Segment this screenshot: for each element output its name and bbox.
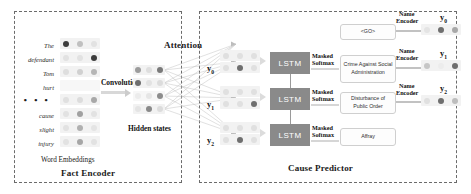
embedding-dot <box>77 139 83 145</box>
word-embedding-row <box>60 38 100 49</box>
name-encoder-label: Name <box>399 47 414 54</box>
hidden-state-row <box>133 104 165 114</box>
word-ellipsis: • • • <box>20 97 54 103</box>
decoder-input-vector <box>220 134 260 145</box>
hidden-state-dot <box>135 80 141 86</box>
decoder-input-dot <box>251 137 257 143</box>
decoder-input-arrow <box>260 57 266 65</box>
hidden-state-dot <box>157 106 163 112</box>
word-label: The <box>20 42 54 49</box>
output-label-y0: y0 <box>440 12 447 24</box>
name-encoder-connector <box>396 67 422 69</box>
decoder-input-vector <box>220 86 260 97</box>
masked-softmax-label: Softmax <box>312 95 334 102</box>
embedding-dot <box>63 97 69 103</box>
decoder-input-dot <box>223 101 229 107</box>
output-vector <box>421 60 461 71</box>
class-label-box: Crime Against Social Administration <box>340 55 396 83</box>
decoder-input-dot <box>223 125 229 131</box>
decoder-input-dot <box>251 89 257 95</box>
decoder-input-dot <box>223 65 229 71</box>
output-dot <box>424 63 430 69</box>
decoder-input-dot <box>251 101 257 107</box>
embedding-dot <box>91 111 97 117</box>
lstm-link <box>290 74 291 88</box>
embedding-dot <box>77 111 83 117</box>
hidden-state-dot <box>146 106 152 112</box>
decoder-input-vector <box>220 62 260 73</box>
lstm-block: LSTM <box>270 124 310 146</box>
word-label: slight <box>20 126 54 133</box>
masked-softmax-label: Softmax <box>312 131 334 138</box>
hidden-state-row <box>133 91 165 101</box>
class-label-box: Disturbance of Public Order <box>340 92 396 114</box>
embedding-dot <box>63 55 69 61</box>
decoder-input-dot <box>237 125 243 131</box>
word-embedding-row <box>60 94 100 105</box>
embedding-dot <box>77 97 83 103</box>
output-label-y1: y1 <box>440 48 447 60</box>
name-encoder-label: Encoder <box>396 54 418 61</box>
output-dot <box>438 63 444 69</box>
word-embedding-row <box>60 136 100 147</box>
word-embedding-row <box>60 52 100 63</box>
convolution-arrowhead <box>125 89 131 97</box>
output-dot <box>452 63 458 69</box>
decoder-input-vector <box>220 98 260 109</box>
embedding-dot <box>63 111 69 117</box>
embedding-dot <box>91 125 97 131</box>
decoder-input-dot <box>223 89 229 95</box>
lstm-block: LSTM <box>270 52 310 74</box>
embedding-dot <box>63 139 69 145</box>
word-embeddings-caption: Word Embeddings <box>41 156 95 164</box>
embedding-dot <box>63 69 69 75</box>
word-label: hurt <box>20 84 54 91</box>
decoder-input-dot <box>223 53 229 59</box>
decoder-input-dot <box>237 89 243 95</box>
decoder-input-vector <box>220 122 260 133</box>
softmax-connector <box>311 68 339 70</box>
decoder-input-dot <box>237 53 243 59</box>
embedding-dot <box>77 69 83 75</box>
word-label: defendant <box>20 56 54 63</box>
hidden-state-dot <box>146 80 152 86</box>
name-encoder-label: Name <box>399 10 414 17</box>
decoder-input-dot <box>251 125 257 131</box>
decoder-input-dot <box>223 137 229 143</box>
masked-softmax-label: Masked <box>312 124 333 131</box>
embedding-dot <box>91 69 97 75</box>
hidden-state-dot <box>146 67 152 73</box>
decoder-input-dot <box>251 65 257 71</box>
decoder-input-dot <box>237 101 243 107</box>
decoder-input-label-y2: y2 <box>207 135 214 147</box>
embedding-dot <box>91 97 97 103</box>
hidden-state-dot <box>146 93 152 99</box>
embedding-dot <box>63 41 69 47</box>
output-dot <box>452 98 458 104</box>
decoder-input-dot <box>237 65 243 71</box>
embedding-dot <box>91 55 97 61</box>
word-label: cause <box>20 112 54 119</box>
output-dot <box>452 27 458 33</box>
output-vector <box>421 95 461 106</box>
output-dot <box>424 98 430 104</box>
word-label: Tom <box>20 70 54 77</box>
lstm-link <box>290 110 291 124</box>
hidden-state-dot <box>157 67 163 73</box>
output-dot <box>438 98 444 104</box>
name-encoder-connector <box>396 30 422 32</box>
output-dot <box>438 27 444 33</box>
name-encoder-connector <box>396 101 422 103</box>
decoder-input-arrow <box>260 129 266 137</box>
softmax-connector <box>311 140 339 142</box>
decoder-input-label-y0: y0 <box>207 63 214 75</box>
hidden-state-row <box>133 78 165 88</box>
cause-predictor-title: Cause Predictor <box>288 163 353 173</box>
decoder-input-dot <box>251 53 257 59</box>
architecture-diagram: The defendant Tom hurt • • • cause sligh… <box>0 0 471 194</box>
decoder-input-arrow <box>260 93 266 101</box>
output-label-y2: y2 <box>440 83 447 95</box>
embedding-dot <box>77 125 83 131</box>
word-label: injury <box>20 140 54 147</box>
embedding-dot <box>91 139 97 145</box>
